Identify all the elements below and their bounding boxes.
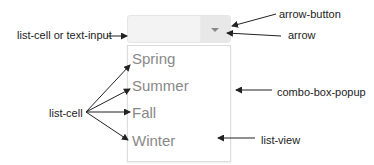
annotation-arrows bbox=[0, 0, 374, 165]
